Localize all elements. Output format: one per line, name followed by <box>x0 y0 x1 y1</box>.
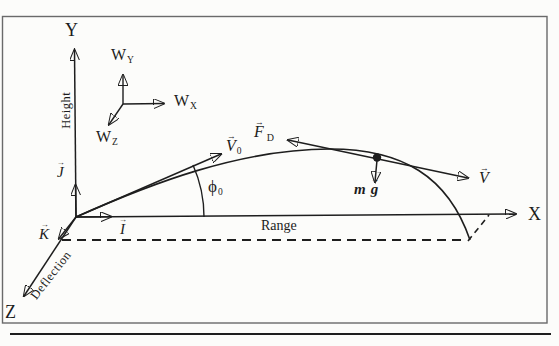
y-axis-label: Y <box>65 21 78 39</box>
vector-arrow-glyph: → <box>371 176 379 184</box>
drag-force-label: →FD <box>254 124 274 143</box>
wind-y-label: WY <box>111 47 134 66</box>
projectile-trajectory-figure: Y X Z Height Deflection Range WY WX WZ →… <box>0 0 559 346</box>
wind-y-base: W <box>111 46 126 63</box>
vector-arrow-glyph: → <box>119 216 127 224</box>
vector-arrow-glyph: → <box>255 118 264 127</box>
initial-velocity-sub: 0 <box>237 146 242 156</box>
x-axis-label: X <box>528 205 541 223</box>
figure-border <box>3 17 548 324</box>
velocity-label: →V <box>479 170 489 186</box>
initial-velocity-label: →V0 <box>226 138 242 157</box>
unit-vector-j-line <box>76 185 77 217</box>
wind-z-label: WZ <box>96 129 118 148</box>
vector-arrow-glyph: → <box>480 164 489 173</box>
wind-x-sub: X <box>190 101 197 111</box>
launch-angle-sub: 0 <box>218 187 223 197</box>
launch-angle-label: ϕ0 <box>208 178 223 198</box>
gravity-force-label: m→g <box>354 182 378 197</box>
vector-arrow-glyph: → <box>227 132 236 141</box>
unit-vector-j-label: →J <box>57 165 64 180</box>
unit-vector-k-line <box>59 217 76 239</box>
unit-vector-i-label: →I <box>120 222 125 237</box>
height-annotation: Height <box>60 80 73 140</box>
wind-y-sub: Y <box>127 55 134 65</box>
launch-angle-symbol: ϕ <box>208 177 217 196</box>
diagram-geometry <box>0 0 559 346</box>
z-axis-label: Z <box>5 303 16 321</box>
range-annotation: Range <box>261 219 297 233</box>
drag-force-sub: D <box>267 132 274 143</box>
wind-x-base: W <box>174 92 189 109</box>
impact-dashed-line <box>468 215 489 241</box>
launch-angle-arc <box>193 165 204 217</box>
x-axis-line <box>75 214 516 217</box>
wind-x-arrow-line <box>123 104 164 105</box>
vector-arrow-glyph: → <box>40 221 48 229</box>
vector-arrow-glyph: → <box>57 159 65 167</box>
wind-z-sub: Z <box>112 137 118 147</box>
wind-z-arrow-line <box>109 104 123 125</box>
unit-vector-k-label: →K <box>39 227 49 242</box>
wind-z-base: W <box>96 128 111 145</box>
gravity-mass-letter: m <box>354 181 366 197</box>
wind-x-label: WX <box>174 93 197 112</box>
